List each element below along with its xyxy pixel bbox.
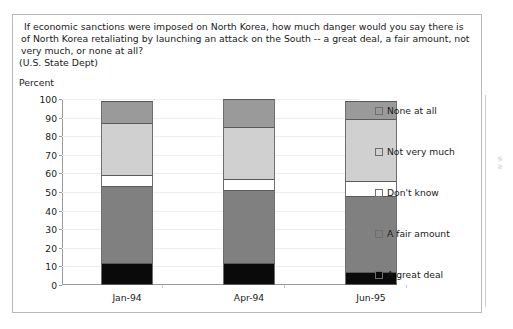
bar-segment[interactable] <box>101 175 153 186</box>
legend-item[interactable]: Not very much <box>375 146 455 157</box>
y-tick-mark <box>59 285 62 286</box>
question-text: If economic sanctions were imposed on No… <box>21 21 473 57</box>
plot-area: 0102030405060708090100 Jan-94Apr-94Jun-9… <box>62 99 359 285</box>
legend-swatch-icon <box>375 230 383 238</box>
x-tick-mark <box>284 285 285 288</box>
y-tick-label: 30 <box>45 224 57 235</box>
legend-item[interactable]: Don't know <box>375 187 439 198</box>
x-tick-label: Jan-94 <box>112 292 141 303</box>
y-tick-label: 70 <box>45 149 57 160</box>
legend-divider <box>485 95 486 307</box>
legend-item[interactable]: A great deal <box>375 269 443 280</box>
bar-segment[interactable] <box>101 263 153 285</box>
legend-label: A fair amount <box>387 228 450 239</box>
bar-segment[interactable] <box>101 101 153 123</box>
legend-swatch-icon <box>375 107 383 115</box>
legend-swatch-icon <box>375 189 383 197</box>
legend-label: None at all <box>387 105 437 116</box>
y-tick-label: 0 <box>51 280 57 291</box>
legend-label: Not very much <box>387 146 455 157</box>
bar-segment[interactable] <box>223 263 275 285</box>
y-tick-mark <box>59 173 62 174</box>
chart-frame: If economic sanctions were imposed on No… <box>12 14 482 313</box>
bar-segment[interactable] <box>223 190 275 263</box>
bar-segment[interactable] <box>223 127 275 179</box>
source-text: (U.S. State Dept) <box>19 57 98 69</box>
y-tick-label: 60 <box>45 168 57 179</box>
y-tick-label: 40 <box>45 205 57 216</box>
scan-artifact-right: ≶≷ <box>497 155 503 171</box>
x-tick-mark <box>162 285 163 288</box>
y-tick-mark <box>59 192 62 193</box>
x-tick-label: Jun-95 <box>356 292 385 303</box>
bar-stack[interactable] <box>223 99 275 285</box>
legend-item[interactable]: None at all <box>375 105 437 116</box>
y-tick-mark <box>59 211 62 212</box>
legend-label: A great deal <box>387 269 443 280</box>
legend-label: Don't know <box>387 187 439 198</box>
y-axis-title: Percent <box>19 77 54 88</box>
y-tick-mark <box>59 248 62 249</box>
y-tick-mark <box>59 118 62 119</box>
y-tick-label: 100 <box>39 94 57 105</box>
x-tick-mark <box>406 285 407 288</box>
y-tick-mark <box>59 136 62 137</box>
bar-segment[interactable] <box>223 179 275 190</box>
y-tick-label: 90 <box>45 112 57 123</box>
legend-swatch-icon <box>375 148 383 156</box>
bar-stack[interactable] <box>101 99 153 285</box>
x-tick-label: Apr-94 <box>234 292 264 303</box>
bar-segment[interactable] <box>223 99 275 127</box>
y-tick-label: 50 <box>45 187 57 198</box>
y-tick-mark <box>59 266 62 267</box>
y-tick-mark <box>59 229 62 230</box>
legend-item[interactable]: A fair amount <box>375 228 450 239</box>
y-tick-mark <box>59 99 62 100</box>
y-tick-mark <box>59 155 62 156</box>
bar-segment[interactable] <box>101 123 153 175</box>
y-tick-label: 20 <box>45 242 57 253</box>
legend-swatch-icon <box>375 271 383 279</box>
legend: None at allNot very muchDon't knowA fair… <box>375 99 479 285</box>
y-tick-label: 10 <box>45 261 57 272</box>
y-tick-label: 80 <box>45 131 57 142</box>
bar-segment[interactable] <box>101 186 153 262</box>
